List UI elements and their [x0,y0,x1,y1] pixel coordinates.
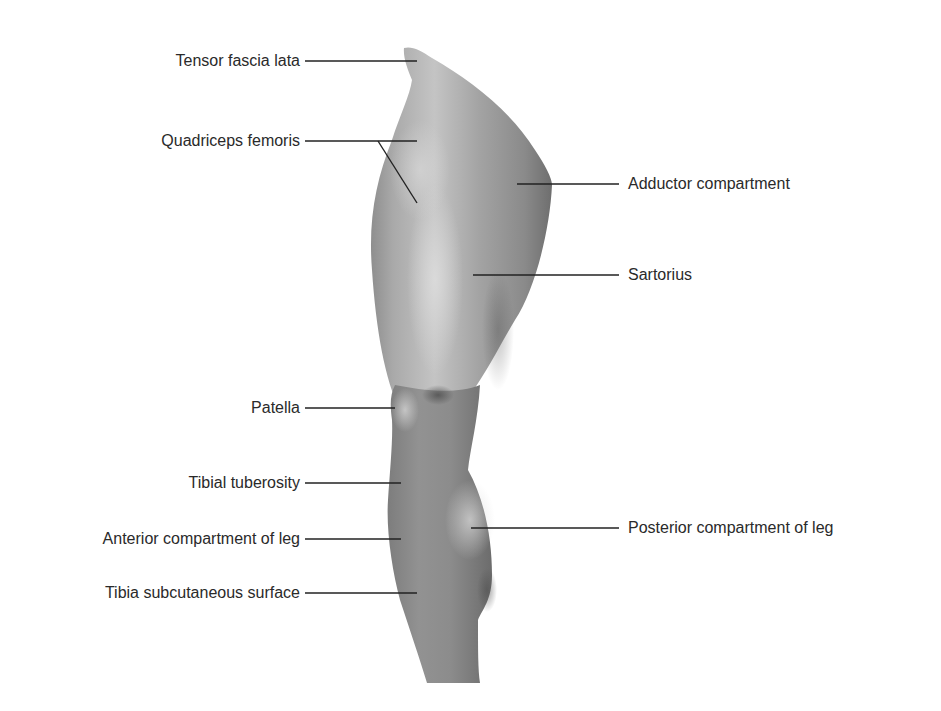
label-posterior-compartment-of-leg: Posterior compartment of leg [628,519,833,537]
label-tibia-subcutaneous-surface: Tibia subcutaneous surface [105,584,300,602]
label-anterior-compartment-of-leg: Anterior compartment of leg [103,530,300,548]
label-sartorius: Sartorius [628,266,692,284]
label-tibial-tuberosity: Tibial tuberosity [189,474,300,492]
label-tensor-fascia-lata: Tensor fascia lata [175,52,300,70]
anatomy-figure: Tensor fascia lata Quadriceps femoris Pa… [0,0,941,711]
label-patella: Patella [251,399,300,417]
leg-illustration [0,0,941,711]
label-quadriceps-femoris: Quadriceps femoris [161,132,300,150]
thigh-silhouette [371,47,552,410]
label-adductor-compartment: Adductor compartment [628,175,790,193]
